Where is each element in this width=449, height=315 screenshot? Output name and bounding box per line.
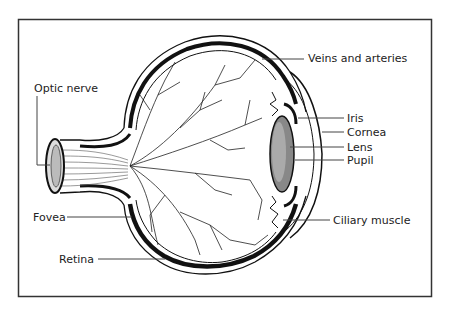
ciliary-upper [270, 92, 278, 116]
label-veins-and-arteries: Veins and arteries [308, 52, 408, 65]
label-pupil: Pupil [347, 154, 374, 167]
label-cornea: Cornea [347, 126, 386, 139]
blood-vessels [130, 60, 268, 255]
choroid-bottom [130, 204, 296, 267]
label-retina: Retina [59, 253, 94, 266]
eye-diagram: Optic nerve Veins and arteries Iris Corn… [0, 0, 449, 315]
anterior-eye [270, 72, 322, 238]
nerve-fibers [62, 150, 128, 186]
label-lens: Lens [347, 141, 373, 154]
ciliary-lower [270, 196, 278, 228]
label-optic-nerve: Optic nerve [34, 82, 98, 95]
retina-line-top [136, 51, 276, 130]
label-ciliary-muscle: Ciliary muscle [333, 214, 411, 227]
choroid-top [130, 43, 296, 128]
label-iris: Iris [347, 112, 364, 125]
label-fovea: Fovea [33, 211, 66, 224]
optic-nerve [46, 128, 130, 205]
